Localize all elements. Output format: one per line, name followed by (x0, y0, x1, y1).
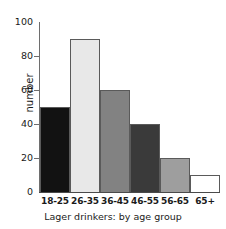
bar-36-45 (100, 90, 130, 192)
bar-series (40, 22, 220, 192)
x-axis-tick-label: 46-55 (130, 195, 160, 209)
y-axis-tick-label: 40 (7, 119, 33, 129)
x-axis-tick-label: 18-25 (40, 195, 70, 209)
x-axis-line (39, 192, 220, 193)
bar-56-65 (160, 158, 190, 192)
bar-26-35 (70, 39, 100, 192)
y-axis-tick-mark (34, 124, 39, 125)
x-axis-tick-label: 26-35 (70, 195, 100, 209)
x-axis-tick-label: 65+ (190, 195, 220, 209)
bar-chart-figure: number 020406080100 18-2526-3536-4546-55… (0, 0, 226, 229)
y-axis-tick-labels: 020406080100 (0, 0, 33, 229)
x-axis-tick-label: 56-65 (160, 195, 190, 209)
y-axis-tick-label: 60 (7, 85, 33, 95)
y-axis-tick-mark (34, 56, 39, 57)
y-axis-tick-mark (34, 158, 39, 159)
y-axis-tick-label: 80 (7, 51, 33, 61)
y-axis-tick-label: 100 (7, 17, 33, 27)
bar-46-55 (130, 124, 160, 192)
x-axis-tick-label: 36-45 (100, 195, 130, 209)
bar-65+ (190, 175, 220, 192)
y-axis-tick-mark (34, 90, 39, 91)
y-axis-tick-label: 0 (7, 187, 33, 197)
bar-18-25 (40, 107, 70, 192)
y-axis-tick-label: 20 (7, 153, 33, 163)
x-axis-tick-labels: 18-2526-3536-4546-5556-6565+ (40, 195, 220, 209)
chart-caption: Lager drinkers: by age group (0, 211, 226, 223)
